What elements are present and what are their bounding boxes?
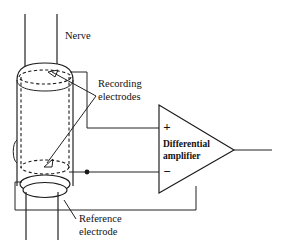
recording-electrodes-label-line1: Recording (98, 78, 142, 89)
diagram-canvas: + − Differential amplifier Nerve Recordi… (0, 0, 283, 249)
nerve-recording-diagram: + − Differential amplifier Nerve Recordi… (0, 0, 283, 249)
wire-junction-dot (85, 170, 90, 175)
amplifier-label-line1: Differential (163, 139, 210, 149)
amplifier-label-line2: amplifier (163, 151, 201, 161)
reference-electrode-label-line2: electrode (79, 226, 118, 237)
amplifier-minus-input-label: − (163, 164, 170, 179)
reference-electrode-ring (20, 175, 70, 198)
amplifier-plus-input-label: + (163, 119, 170, 134)
nerve-fiber-lines-lower (26, 192, 58, 240)
reference-electrode-label-line1: Reference (79, 213, 122, 224)
recording-electrodes-label-line2: electrodes (98, 91, 141, 102)
recording-electrode-upper (19, 70, 71, 168)
wire-lower-electrode-to-minus (69, 170, 159, 175)
nerve-label: Nerve (65, 30, 91, 41)
